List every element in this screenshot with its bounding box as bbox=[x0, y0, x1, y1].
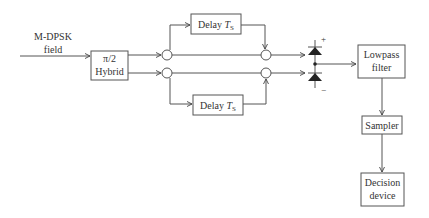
decision-line2: device bbox=[361, 189, 404, 202]
delay-bottom-sub: S bbox=[232, 105, 236, 113]
mdpsk-receiver-diagram: M-DPSK field π/2 Hybrid Delay TS Delay T… bbox=[0, 0, 429, 218]
decision-line1: Decision bbox=[361, 176, 404, 189]
photodiode-bottom-icon bbox=[308, 73, 322, 81]
hybrid-line1: π/2 bbox=[91, 52, 128, 65]
plus-sign: + bbox=[321, 33, 326, 46]
input-label-line1: M-DPSK bbox=[28, 30, 78, 43]
input-label-line2: field bbox=[28, 43, 78, 56]
sampler-label: Sampler bbox=[362, 119, 402, 132]
delay-top-sub: S bbox=[230, 24, 234, 32]
delay-top-label: Delay TS bbox=[191, 18, 241, 35]
hybrid-line2: Hybrid bbox=[91, 65, 128, 78]
photodiode-top-icon bbox=[308, 47, 322, 55]
delay-bottom-label: Delay TS bbox=[193, 99, 243, 116]
input-label: M-DPSK field bbox=[28, 30, 78, 56]
delay-top-text: Delay bbox=[198, 19, 224, 30]
minus-sign: − bbox=[321, 84, 326, 97]
delay-bottom-text: Delay bbox=[200, 100, 226, 111]
lowpass-line2: filter bbox=[358, 61, 405, 74]
lowpass-label: Lowpass filter bbox=[358, 48, 405, 74]
lowpass-line1: Lowpass bbox=[358, 48, 405, 61]
hybrid-label: π/2 Hybrid bbox=[91, 52, 128, 78]
decision-label: Decision device bbox=[361, 176, 404, 202]
